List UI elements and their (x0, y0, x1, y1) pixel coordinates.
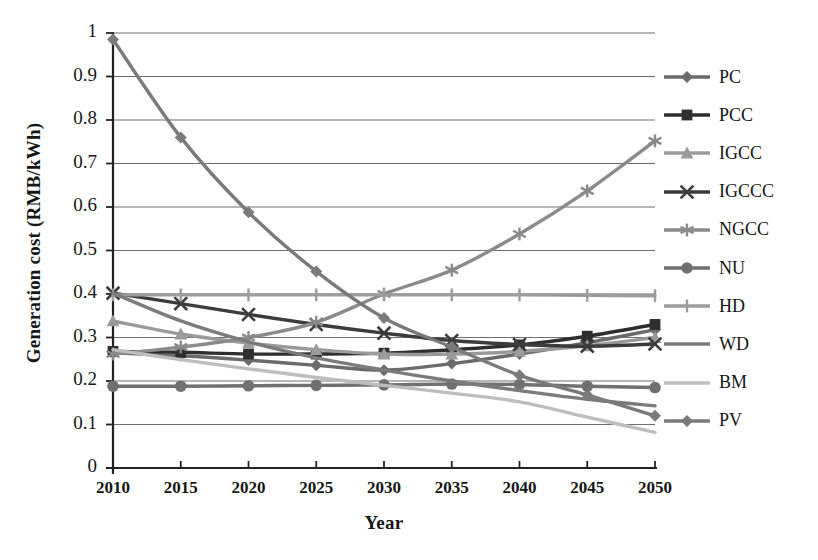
legend-marker (682, 110, 693, 121)
series-ngcc (107, 134, 662, 360)
legend-marker-x-icon (664, 182, 710, 202)
legend-marker-line-icon (664, 334, 710, 354)
legend-label: IGCC (710, 143, 762, 164)
marker-square (682, 110, 693, 121)
legend-label: NU (710, 258, 745, 279)
marker-circle (649, 382, 661, 394)
legend-label: PCC (710, 105, 753, 126)
marker-diamond (514, 369, 526, 381)
legend-item-bm[interactable]: BM (664, 364, 814, 402)
series-pv (107, 34, 661, 422)
marker-diamond (681, 71, 693, 83)
legend-label: HD (710, 296, 745, 317)
legend-marker (681, 71, 693, 83)
marker-circle (243, 380, 255, 392)
legend-marker (681, 415, 693, 427)
marker-circle (175, 380, 187, 392)
legend-item-wd[interactable]: WD (664, 325, 814, 363)
marker-diamond (649, 410, 661, 422)
legend-item-ngcc[interactable]: NGCC (664, 211, 814, 249)
legend-label: PV (710, 410, 742, 431)
legend-marker (681, 262, 693, 274)
marker-square (243, 349, 254, 360)
generation-cost-chart: Generation cost (RMB/kWh) Year 00.10.20.… (0, 0, 818, 560)
legend-item-igccc[interactable]: IGCCC (664, 173, 814, 211)
marker-circle (681, 262, 693, 274)
legend-item-nu[interactable]: NU (664, 249, 814, 287)
legend-item-pv[interactable]: PV (664, 402, 814, 440)
chart-legend: PCPCCIGCCIGCCCNGCCNUHDWDBMPV (664, 58, 814, 440)
legend-marker-square-icon (664, 105, 710, 125)
legend-item-pc[interactable]: PC (664, 58, 814, 96)
marker-diamond (310, 359, 322, 371)
legend-label: BM (710, 372, 747, 393)
marker-circle (310, 380, 322, 392)
legend-marker-asterisk-icon (664, 220, 710, 240)
legend-marker-plus-icon (664, 296, 710, 316)
marker-diamond (681, 415, 693, 427)
legend-item-hd[interactable]: HD (664, 287, 814, 325)
legend-item-pcc[interactable]: PCC (664, 96, 814, 134)
legend-marker-circle-icon (664, 258, 710, 278)
series-hd (113, 288, 655, 302)
marker-circle (107, 380, 119, 392)
marker-square (650, 319, 661, 330)
legend-label: WD (710, 334, 749, 355)
legend-item-igcc[interactable]: IGCC (664, 134, 814, 172)
legend-marker-diamond-icon (664, 411, 710, 431)
legend-label: PC (710, 67, 741, 88)
legend-label: IGCCC (710, 181, 774, 202)
legend-label: NGCC (710, 219, 769, 240)
legend-marker-triangle-icon (664, 143, 710, 163)
legend-marker-line-icon (664, 373, 710, 393)
legend-marker-diamond-icon (664, 67, 710, 87)
